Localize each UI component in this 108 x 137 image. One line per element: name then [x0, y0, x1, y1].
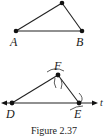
arc-F-left: [54, 78, 56, 88]
label-t: t: [100, 97, 103, 108]
point-D: [10, 101, 15, 106]
label-D: D: [5, 107, 15, 121]
point-A: [14, 29, 19, 34]
arc-F-right: [61, 79, 62, 89]
bottom-construction: t F D E: [1, 59, 103, 121]
label-B: B: [76, 35, 84, 49]
label-F: F: [53, 59, 62, 73]
point-apex: [60, 1, 65, 6]
point-B: [80, 29, 85, 34]
label-A: A: [9, 35, 18, 49]
point-E: [77, 101, 82, 106]
segment-DF: [12, 75, 58, 103]
segment-A-apex: [16, 3, 62, 31]
figure-caption: Figure 2.37: [31, 125, 77, 136]
label-E: E: [73, 107, 82, 121]
geometry-figure: A B t F D E Figure 2.37: [0, 0, 108, 137]
arrow-left-icon: [1, 101, 7, 106]
top-triangle: A B: [9, 1, 84, 49]
segment-apex-B: [62, 3, 82, 31]
point-F: [56, 73, 61, 78]
arrow-right-icon: [92, 101, 98, 106]
